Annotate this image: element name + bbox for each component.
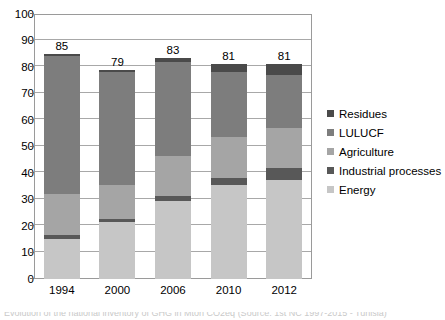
x-axis-tick-label: 2010 — [201, 284, 257, 296]
gridline — [35, 171, 311, 172]
gridline — [35, 118, 311, 119]
legend-label: Residues — [339, 108, 387, 120]
y-axis-tick-label: 20 — [4, 221, 34, 233]
legend-label: Industrial processes — [339, 165, 441, 177]
legend-label: Agriculture — [339, 146, 394, 158]
y-axis-tick-label: 100 — [4, 9, 34, 21]
legend-item[interactable]: Energy — [327, 180, 445, 199]
gridline — [35, 92, 311, 93]
legend-item[interactable]: Industrial processes — [327, 161, 445, 180]
gridline — [35, 39, 311, 40]
x-axis-tick-label: 1994 — [34, 284, 90, 296]
gridline — [35, 145, 311, 146]
legend-swatch-icon — [327, 167, 334, 174]
gridline — [35, 224, 311, 225]
legend-item[interactable]: LULUCF — [327, 123, 445, 142]
plot-area — [34, 14, 312, 279]
legend-swatch-icon — [327, 110, 334, 117]
y-axis: 0102030405060708090100 — [0, 14, 34, 279]
x-axis-tick-label: 2000 — [90, 284, 146, 296]
y-axis-tick-label: 90 — [4, 35, 34, 47]
y-axis-tick-label: 70 — [4, 88, 34, 100]
figure-caption-text: Evolution of the national inventory of G… — [4, 312, 387, 318]
y-axis-tick-label: 40 — [4, 168, 34, 180]
x-axis-tick-label: 2006 — [145, 284, 201, 296]
legend-item[interactable]: Agriculture — [327, 142, 445, 161]
stacked-bar-chart: 0102030405060708090100 8579838181 199420… — [0, 0, 445, 320]
figure-caption: Evolution of the national inventory of G… — [0, 312, 445, 320]
gridline — [35, 65, 311, 66]
y-axis-tick-label: 50 — [4, 141, 34, 153]
gridline — [35, 198, 311, 199]
legend-label: Energy — [339, 184, 375, 196]
x-axis-tick-label: 2012 — [256, 284, 312, 296]
legend-swatch-icon — [327, 148, 334, 155]
y-axis-tick-label: 30 — [4, 194, 34, 206]
y-axis-tick-label: 60 — [4, 115, 34, 127]
y-axis-tick-label: 10 — [4, 247, 34, 259]
y-axis-tick-label: 0 — [4, 274, 34, 286]
gridline — [35, 251, 311, 252]
legend-label: LULUCF — [339, 127, 384, 139]
legend-item[interactable]: Residues — [327, 104, 445, 123]
chart-legend: ResiduesLULUCFAgricultureIndustrial proc… — [327, 104, 445, 199]
y-axis-tick-label: 80 — [4, 62, 34, 74]
legend-swatch-icon — [327, 129, 334, 136]
legend-swatch-icon — [327, 186, 334, 193]
